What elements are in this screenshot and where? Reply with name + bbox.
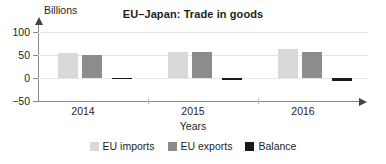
y-tick-label: 0 [0,72,30,84]
plot-area [38,32,368,101]
x-axis-tick [148,99,149,104]
legend-label: Balance [258,140,296,152]
x-tick-label-2014: 2014 [43,105,123,117]
x-axis-line [38,101,360,102]
legend-swatch-icon [245,142,254,151]
bar-balance-2015 [222,78,242,80]
gridline-0 [38,78,368,79]
bar-balance-2014 [112,78,132,79]
y-tick-label: 50 [0,49,30,61]
legend-item-eu-imports: EU imports [90,140,155,152]
x-tick-label-2015: 2015 [153,105,233,117]
legend-label: EU imports [103,140,155,152]
legend-swatch-icon [168,142,177,151]
x-tick-label-2016: 2016 [263,105,343,117]
bar-exports-2014 [82,55,102,78]
bar-exports-2016 [302,52,322,78]
x-axis-title: Years [0,120,386,132]
y-tick-label: 100 [0,26,30,38]
bar-balance-2016 [332,78,352,81]
bar-imports-2014 [58,53,78,78]
gridline-100 [38,32,368,33]
chart-legend: EU imports EU exports Balance [0,140,386,152]
chart-title: EU–Japan: Trade in goods [0,8,386,20]
bar-imports-2016 [278,49,298,78]
legend-label: EU exports [181,140,233,152]
legend-item-eu-exports: EU exports [168,140,233,152]
x-axis-tick [258,99,259,104]
bar-imports-2015 [168,52,188,78]
legend-swatch-icon [90,142,99,151]
legend-item-balance: Balance [245,140,296,152]
bar-exports-2015 [192,52,212,78]
chart-container: Billions EU–Japan: Trade in goods 100 50… [0,0,386,164]
y-axis-arrow-icon [35,17,43,25]
y-tick-label: −50 [0,95,30,107]
